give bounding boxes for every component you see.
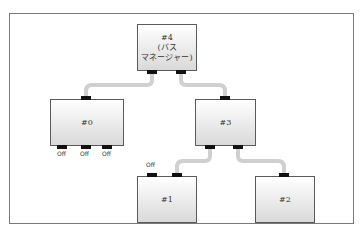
node-0-port-top	[81, 96, 91, 100]
node-1-port-2	[172, 173, 182, 177]
node-0-port-3	[102, 145, 112, 149]
node-3-label: #3	[220, 118, 232, 128]
node-0-port-3-status: Off	[102, 150, 111, 157]
node-2-label: #2	[279, 195, 291, 205]
node-0-port-1	[57, 145, 67, 149]
node-1-port-1	[147, 173, 157, 177]
node-2: #2	[255, 176, 315, 223]
node-1-label: #1	[161, 195, 173, 205]
node-4-port-2	[176, 70, 186, 74]
node-4-line1: #4	[141, 33, 192, 43]
node-4-port-1	[147, 70, 157, 74]
node-0-label: #0	[81, 118, 93, 128]
node-3: #3	[195, 99, 256, 146]
node-4-line3: マネージャー)	[141, 53, 192, 63]
node-2-port-top	[279, 173, 289, 177]
node-0-port-1-status: Off	[57, 150, 66, 157]
node-0-port-2-status: Off	[80, 150, 89, 157]
node-3-port-top	[220, 96, 230, 100]
node-3-port-1	[205, 145, 215, 149]
node-4-line2: (バス	[141, 43, 192, 53]
node-0-port-2	[81, 145, 91, 149]
node-3-port-2	[233, 145, 243, 149]
node-4-bus-manager: #4 (バス マネージャー)	[137, 24, 197, 71]
node-1-port-1-status: Off	[146, 161, 155, 168]
node-0: #0	[50, 99, 124, 146]
node-1: #1	[137, 176, 197, 223]
